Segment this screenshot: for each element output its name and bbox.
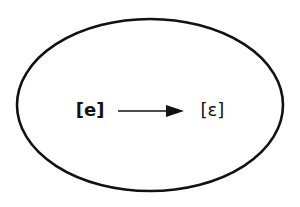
rule-content-row: [e] [ɛ] [0,90,300,130]
target-phoneme-label: [ɛ] [200,101,224,119]
source-phoneme-label: [e] [76,101,105,119]
arrow-head [166,105,184,117]
phoneme-rule-diagram: [e] [ɛ] [0,0,300,207]
right-arrow-icon [118,102,186,120]
